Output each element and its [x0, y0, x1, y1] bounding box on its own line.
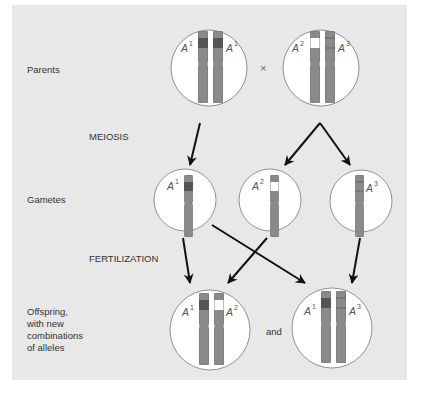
allele-label: A: [225, 42, 233, 54]
parent-cell-2: A2 A3: [283, 30, 359, 106]
svg-text:3: 3: [357, 303, 361, 310]
gamete-cell-2: A2: [239, 169, 301, 237]
offspring-cell-2: A1 A3: [292, 288, 372, 368]
genetics-diagram: A1 A1 A2 A3 A1 A2 A3 A1: [0, 0, 421, 393]
svg-text:A: A: [291, 42, 299, 54]
offspring-cell-1: A1 A2: [170, 290, 250, 370]
arrow-fert-g3-o2: [352, 238, 360, 283]
svg-text:A: A: [303, 305, 311, 317]
svg-text:3: 3: [374, 180, 378, 187]
gamete-cell-1: A1: [154, 169, 216, 237]
svg-text:A: A: [348, 305, 356, 317]
svg-text:2: 2: [300, 40, 304, 47]
svg-text:A: A: [181, 306, 189, 318]
arrow-fert-g2-o1: [228, 238, 267, 283]
svg-text:2: 2: [260, 178, 264, 185]
svg-text:A: A: [365, 182, 373, 194]
svg-text:1: 1: [234, 40, 238, 47]
svg-text:A: A: [225, 306, 233, 318]
arrow-meiosis-p1: [190, 123, 200, 165]
svg-text:1: 1: [312, 303, 316, 310]
parent-cell-1: A1 A1: [171, 30, 247, 106]
gamete-cell-3: A3: [330, 170, 392, 237]
svg-text:A: A: [166, 180, 174, 192]
arrow-fert-g1-o2: [212, 225, 305, 283]
arrow-fert-g1-o1: [183, 238, 190, 283]
svg-text:2: 2: [234, 304, 238, 311]
arrow-meiosis-p2-left: [285, 123, 320, 165]
svg-text:3: 3: [346, 40, 350, 47]
arrow-meiosis-p2-right: [320, 123, 350, 165]
svg-text:1: 1: [190, 304, 194, 311]
svg-text:1: 1: [189, 40, 193, 47]
svg-text:A: A: [251, 180, 259, 192]
svg-text:A: A: [337, 42, 345, 54]
allele-label: A: [180, 42, 188, 54]
svg-text:1: 1: [175, 178, 179, 185]
